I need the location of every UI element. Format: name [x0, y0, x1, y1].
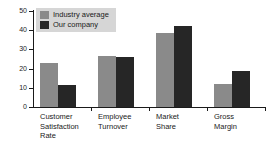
y-tick: 0: [29, 107, 34, 108]
chart-legend: Industry averageOur company: [36, 8, 116, 32]
y-tick-label: 30: [19, 45, 27, 53]
y-tick-label: 20: [19, 65, 27, 73]
legend-label: Industry average: [53, 11, 109, 19]
bar: [232, 71, 250, 107]
y-tick-label: 50: [19, 7, 27, 15]
bar: [174, 26, 192, 107]
x-tick-mark: [91, 107, 92, 111]
bar: [58, 85, 76, 107]
bar: [116, 57, 134, 107]
legend-item: Our company: [40, 21, 109, 29]
x-tick-mark: [149, 107, 150, 111]
legend-item: Industry average: [40, 11, 109, 19]
bar: [156, 33, 174, 107]
legend-swatch-icon: [40, 21, 49, 29]
category-label: Employee Turnover: [98, 112, 162, 131]
legend-label: Our company: [53, 21, 98, 29]
category-label: Market Share: [156, 112, 220, 131]
category-label: Customer Satisfaction Rate: [40, 112, 104, 141]
y-tick-mark: [29, 107, 34, 108]
x-tick-mark: [207, 107, 208, 111]
x-tick-mark: [265, 107, 266, 111]
y-tick-label: 10: [19, 84, 27, 92]
bar-chart: 01020304050 Customer Satisfaction RateEm…: [0, 0, 272, 142]
y-tick-label: 40: [19, 26, 27, 34]
category-label: Gross Margin: [214, 112, 272, 131]
bar: [98, 56, 116, 107]
y-tick-label: 0: [23, 103, 27, 111]
bar: [214, 84, 232, 107]
legend-swatch-icon: [40, 11, 49, 19]
bar: [40, 63, 58, 107]
